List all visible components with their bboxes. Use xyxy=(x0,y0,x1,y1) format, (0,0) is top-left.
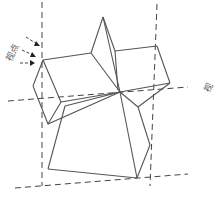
lower-left-edge xyxy=(48,106,65,169)
peak-left-edge xyxy=(91,17,103,53)
right-box-side-edge xyxy=(157,46,170,83)
left-box-top-edge xyxy=(43,53,91,60)
viewpoint-arrows xyxy=(20,37,40,66)
diagram-canvas: 视点 视 xyxy=(0,0,215,210)
lower-right-edge xyxy=(137,145,150,178)
viewpoint-label-right: 视 xyxy=(201,81,215,94)
arrow-head-3-icon xyxy=(30,60,35,66)
viewpoint-label-left: 视点 xyxy=(3,42,21,63)
left-box-bottom-edge xyxy=(61,92,120,102)
left-box-side-face xyxy=(33,60,61,124)
right-box-top-edge xyxy=(115,46,157,51)
guide-lines xyxy=(8,2,188,188)
lower-bottom-edge xyxy=(48,169,137,178)
lower-right-upper-edge xyxy=(138,107,150,145)
lower-center-edge xyxy=(120,92,137,178)
right-box-bottom-edge xyxy=(120,83,170,92)
arrow-head-2-icon xyxy=(30,52,36,57)
ground-guide xyxy=(15,174,188,188)
arrow-head-1-icon xyxy=(34,41,40,46)
